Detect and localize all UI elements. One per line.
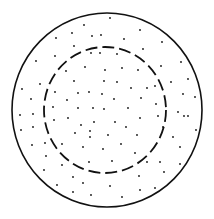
dot (21, 88, 23, 90)
dot (162, 126, 164, 128)
dot (72, 191, 74, 193)
dot (83, 24, 85, 26)
dot (140, 97, 142, 99)
dot (136, 134, 138, 136)
dot (127, 107, 129, 109)
dot (56, 184, 58, 186)
dot (182, 93, 184, 95)
dot (103, 108, 105, 110)
dot (61, 164, 63, 166)
dot (134, 152, 136, 154)
dot (88, 91, 90, 93)
dot (73, 80, 75, 82)
dot (39, 83, 41, 85)
dot (32, 126, 34, 128)
dot (146, 87, 148, 89)
dot (146, 161, 148, 163)
dot (99, 52, 101, 54)
dot (170, 81, 172, 83)
dot (142, 48, 144, 50)
dot (61, 143, 63, 145)
dot (107, 134, 109, 136)
dot (71, 32, 73, 34)
dot (109, 185, 111, 187)
dot (89, 130, 91, 132)
dot (179, 146, 181, 148)
dot (154, 187, 156, 189)
dot (154, 85, 156, 87)
dot (139, 117, 141, 119)
dot (138, 175, 140, 177)
dot (179, 163, 181, 165)
dot (159, 161, 161, 163)
dot (91, 35, 93, 37)
dot (180, 61, 182, 63)
dot (90, 52, 92, 54)
dot (130, 87, 132, 89)
dot (30, 98, 32, 100)
dot (104, 69, 106, 71)
dot (74, 132, 76, 134)
dot (116, 81, 118, 83)
dot (53, 119, 55, 121)
dot (101, 93, 103, 95)
dot (54, 55, 56, 57)
dot (93, 121, 95, 123)
dot (82, 182, 84, 184)
dot (113, 98, 115, 100)
dot (19, 114, 21, 116)
dot (77, 92, 79, 94)
dot (109, 17, 111, 19)
dot (157, 115, 159, 117)
dot (195, 129, 197, 131)
dot (31, 144, 33, 146)
dot (82, 146, 84, 148)
dot (114, 121, 116, 123)
dot (80, 124, 82, 126)
dot (100, 34, 102, 36)
dot (84, 66, 86, 68)
dot (183, 115, 185, 117)
dot (73, 45, 75, 47)
dot (92, 107, 94, 109)
dot (139, 29, 141, 31)
dot (103, 80, 105, 82)
background (0, 0, 214, 219)
dot (187, 115, 189, 117)
dot (137, 69, 139, 71)
dot (43, 169, 45, 171)
dot (90, 194, 92, 196)
dot (177, 111, 179, 113)
dot (72, 176, 74, 178)
dot (66, 99, 68, 101)
dot (161, 41, 163, 43)
dot (89, 136, 91, 138)
dot (111, 160, 113, 162)
dot (125, 126, 127, 128)
dot (172, 136, 174, 138)
dot (88, 161, 90, 163)
dot (121, 67, 123, 69)
dot (77, 107, 79, 109)
dot (123, 38, 125, 40)
dot (155, 103, 157, 105)
dot (54, 91, 56, 93)
dot (163, 171, 165, 173)
dot (67, 117, 69, 119)
dot (65, 70, 67, 72)
dot (139, 189, 141, 191)
dot (44, 142, 46, 144)
concentric-circle-diagram (0, 0, 214, 219)
dot (55, 37, 57, 39)
dot (20, 129, 22, 131)
dot (120, 143, 122, 145)
dot (160, 65, 162, 67)
dot (52, 106, 54, 108)
dot (116, 53, 118, 55)
dot (32, 113, 34, 115)
dot (35, 60, 37, 62)
dot (121, 196, 123, 198)
dot (194, 96, 196, 98)
dot (102, 148, 104, 150)
dot (45, 155, 47, 157)
